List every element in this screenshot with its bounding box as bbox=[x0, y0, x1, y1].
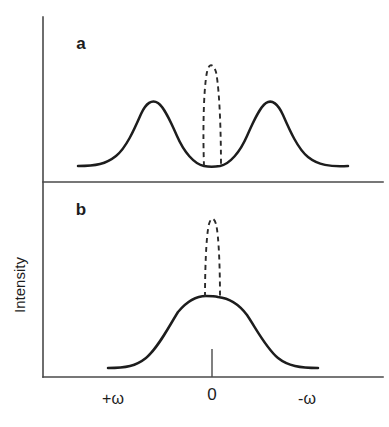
panel-b-group: b bbox=[76, 200, 318, 368]
panel-a-doublet-curve bbox=[78, 101, 348, 166]
lineshape-figure-svg: a b +ω 0 -ω Intensity bbox=[0, 0, 389, 427]
axes-group bbox=[43, 17, 383, 377]
x-tick-label-negative-omega: -ω bbox=[298, 390, 316, 407]
panel-a-narrow-dashed-line bbox=[203, 65, 221, 166]
figure-container: a b +ω 0 -ω Intensity bbox=[0, 0, 389, 427]
y-axis-title-group: Intensity bbox=[11, 257, 28, 313]
panel-a-label: a bbox=[76, 34, 86, 53]
panel-b-singlet-curve bbox=[108, 296, 318, 368]
x-tick-labels-group: +ω 0 -ω bbox=[102, 385, 316, 407]
y-axis-title: Intensity bbox=[11, 257, 28, 313]
x-tick-label-zero: 0 bbox=[207, 385, 216, 404]
panel-b-narrow-dashed-line bbox=[205, 219, 220, 297]
x-tick-label-positive-omega: +ω bbox=[102, 390, 124, 407]
panel-a-group: a bbox=[76, 34, 348, 167]
panel-b-label: b bbox=[76, 200, 86, 219]
